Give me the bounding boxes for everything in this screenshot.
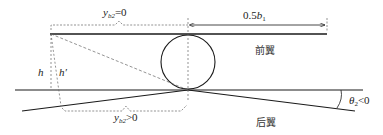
h-prime-label: h′ (59, 66, 68, 78)
top-brace (51, 21, 188, 30)
h-label: h (38, 66, 44, 78)
wing-geometry-diagram: yb2=0 0.5b1 前翼 h h′ yb2>0 后翼 θ2<0 (0, 0, 383, 135)
bottom-brace (62, 105, 187, 111)
front-wing-label: 前翼 (255, 44, 275, 56)
rear-wing-label: 后翼 (256, 117, 276, 128)
diagonal-dashed-line (51, 34, 188, 90)
rear-wing-right-line (188, 90, 355, 111)
theta-arc (337, 90, 342, 108)
top-brace-label: yb2=0 (102, 6, 127, 20)
rear-wing-left-line (22, 90, 188, 111)
theta-label: θ2<0 (349, 94, 370, 108)
front-span-label: 0.5b1 (243, 9, 266, 23)
bottom-brace-label: yb2>0 (113, 111, 138, 125)
